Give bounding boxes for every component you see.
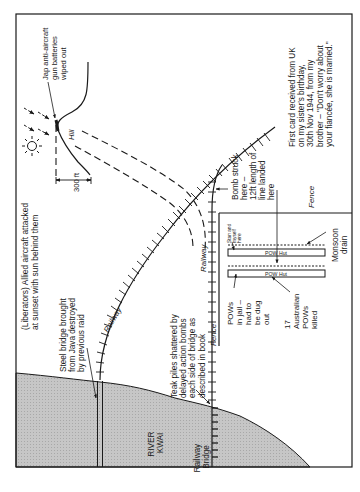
sun-icon <box>22 136 42 156</box>
gun-battery-marker <box>56 120 58 131</box>
fence-side-label: Fence <box>209 323 218 346</box>
australian-pows-label: 17 Australian POWs killed <box>283 291 319 329</box>
pow-hut-1-label: POW Hut <box>265 250 287 256</box>
stan-label: Stan and myself here <box>227 222 242 243</box>
railway-curve-label: Railway <box>102 305 124 334</box>
kwai-bridge-diagram: (Liberators) Allied aircraft attacked at… <box>0 0 360 492</box>
monsoon-drain-label: Monsoon drain <box>331 226 349 262</box>
jap-guns-pointer <box>48 82 55 118</box>
jap-guns-label: Jap anti-aircraft gun batteries wiped ou… <box>41 26 68 81</box>
steel-bridge-label: Steel bridge brought from Java destroyed… <box>59 296 86 372</box>
pow-hut-2-label: POW Hut <box>265 271 287 277</box>
first-card-note: First card received from UK on my sister… <box>288 41 334 147</box>
pows-jail-label: POWs in jail – had to be dug out <box>226 298 271 325</box>
fence-top-label: Fence <box>307 185 316 208</box>
liberators-label: (Liberators) Allied aircraft attacked at… <box>20 201 40 330</box>
bomb-struck-label: Bomb struck here – 12ft length of line l… <box>231 150 276 200</box>
railway-bridge-label: Railway Bridge <box>193 442 211 473</box>
attack-arrows <box>24 108 49 135</box>
teak-piles-label: Teak piles shattered by delayed action b… <box>170 312 207 398</box>
river-kwai-label: RIVER KWAI <box>147 429 165 456</box>
height-label: 300 ft <box>72 172 81 192</box>
railway-straight-label: Railway <box>199 244 208 272</box>
hill-label: Hill <box>67 129 76 140</box>
